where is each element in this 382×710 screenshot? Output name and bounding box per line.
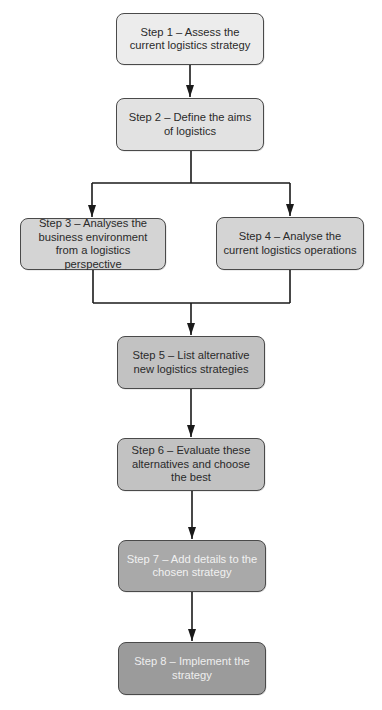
step-7-box: Step 7 – Add details to the chosen strat… — [118, 540, 266, 592]
step-4-box: Step 4 – Analyse the current logistics o… — [216, 217, 364, 270]
step-8-label: Step 8 – Implement the strategy — [125, 655, 259, 682]
step-3-box: Step 3 – Analyses the business environme… — [20, 218, 166, 270]
step-2-box: Step 2 – Define the aims of logistics — [116, 98, 264, 151]
step-8-box: Step 8 – Implement the strategy — [118, 642, 266, 695]
step-5-box: Step 5 – List alternative new logistics … — [117, 336, 265, 389]
step-1-label: Step 1 – Assess the current logistics st… — [123, 26, 257, 53]
step-6-label: Step 6 – Evaluate these alternatives and… — [124, 444, 258, 485]
flowchart-canvas: Step 1 – Assess the current logistics st… — [0, 0, 382, 710]
step-2-label: Step 2 – Define the aims of logistics — [123, 111, 257, 138]
step-3-label: Step 3 – Analyses the business environme… — [27, 217, 159, 271]
step-4-label: Step 4 – Analyse the current logistics o… — [223, 230, 357, 257]
step-6-box: Step 6 – Evaluate these alternatives and… — [117, 438, 265, 491]
step-1-box: Step 1 – Assess the current logistics st… — [116, 13, 264, 65]
step-7-label: Step 7 – Add details to the chosen strat… — [125, 553, 259, 580]
step-5-label: Step 5 – List alternative new logistics … — [124, 349, 258, 376]
